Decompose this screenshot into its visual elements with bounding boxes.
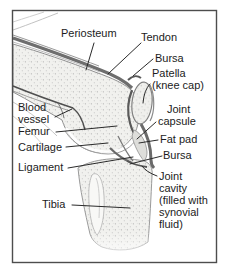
patella-bone xyxy=(130,81,154,125)
label-femur: Femur xyxy=(18,125,50,137)
label-cartilage: Cartilage xyxy=(18,141,62,153)
label-joint-cavity: Joint cavity (filled with synovial fluid… xyxy=(159,170,208,230)
leader-tendon xyxy=(108,43,141,74)
label-bursa-upper: Bursa xyxy=(155,52,184,64)
label-periosteum: Periosteum xyxy=(61,27,117,39)
knee-diagram-figure: Periosteum Tendon Bursa Patella (knee ca… xyxy=(0,0,226,272)
label-ligament: Ligament xyxy=(18,161,63,173)
label-joint-capsule: Joint capsule xyxy=(158,103,196,127)
suprapatellar-bursa xyxy=(128,76,141,80)
label-patella: Patella (knee cap) xyxy=(152,67,204,91)
label-fat-pad: Fat pad xyxy=(160,133,197,145)
label-tibia: Tibia xyxy=(42,198,65,210)
leader-bursa-upper xyxy=(133,59,153,76)
label-bursa-lower: Bursa xyxy=(163,149,192,161)
label-tendon: Tendon xyxy=(141,31,177,43)
label-blood-vessel: Blood vessel xyxy=(18,101,49,125)
bottom-fade xyxy=(55,232,185,262)
